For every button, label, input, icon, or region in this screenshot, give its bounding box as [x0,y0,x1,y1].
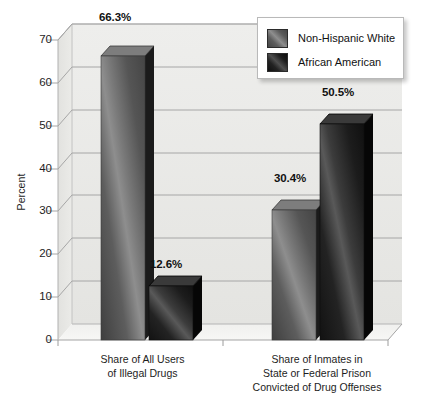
legend-item-non-hispanic-white[interactable]: Non-Hispanic White [267,27,395,49]
bar-black-inmates [320,114,373,340]
category-label-inmates: Share of Inmates in State or Federal Pri… [222,352,412,394]
bar-white-users [101,46,154,340]
category-label-users: Share of All Users of Illegal Drugs [55,352,230,380]
legend-swatch-african-american [267,53,288,72]
legend-label-non-hispanic-white: Non-Hispanic White [298,32,395,44]
value-label-black-users: 12.6% [150,258,182,270]
legend-label-african-american: African American [298,56,381,68]
category-label-inmates-line2: State or Federal Prison [222,366,412,380]
category-label-inmates-line1: Share of Inmates in [222,352,412,366]
y-axis-tick-labels: 70 60 50 40 30 20 10 0 [22,0,52,403]
category-label-inmates-line3: Convicted of Drug Offenses [222,380,412,394]
value-label-white-inmates: 30.4% [274,172,306,184]
value-label-white-users: 66.3% [99,11,131,23]
category-label-users-line2: of Illegal Drugs [55,366,230,380]
y-tick-40: 40 [26,162,52,174]
category-label-users-line1: Share of All Users [55,352,230,366]
y-tick-70: 70 [26,33,52,45]
bar-chart: Percent 70 60 50 40 30 20 10 0 66.3% 12.… [0,0,422,403]
value-label-black-inmates: 50.5% [322,86,354,98]
y-tick-30: 30 [26,204,52,216]
y-tick-60: 60 [26,76,52,88]
bar-black-users [149,276,202,340]
legend: Non-Hispanic White African American [257,17,404,79]
category-separators [58,340,388,346]
y-tick-50: 50 [26,119,52,131]
legend-item-african-american[interactable]: African American [267,51,381,73]
y-tick-10: 10 [26,290,52,302]
legend-swatch-non-hispanic-white [267,29,288,48]
bar-white-inmates [272,200,325,340]
y-tick-20: 20 [26,247,52,259]
y-tick-0: 0 [26,333,52,345]
